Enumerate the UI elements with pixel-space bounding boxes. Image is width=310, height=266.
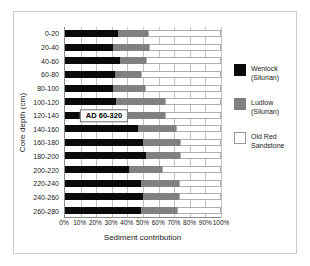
bar-segment <box>141 180 178 187</box>
legend-label-line: Ludlow <box>251 98 279 107</box>
bar-segment <box>148 30 221 37</box>
x-axis-tick-label: 50% <box>136 219 149 226</box>
legend-entry: Ludlow(Silurian) <box>234 98 304 117</box>
legend-label-line: Old Red <box>251 132 284 141</box>
bar-segment <box>180 139 221 146</box>
x-axis-tick-label: 20% <box>89 219 102 226</box>
bar-segment <box>129 166 162 173</box>
bar-segment <box>146 57 221 64</box>
bar-segment <box>141 71 221 78</box>
gridline <box>221 27 222 217</box>
bar-row <box>65 163 221 177</box>
y-axis-tick-label: 20-40 <box>16 41 62 55</box>
bar-segment <box>120 57 147 64</box>
bar-segment <box>65 71 115 78</box>
stacked-bar <box>65 44 221 51</box>
bar-segment <box>116 98 164 105</box>
legend-label: Wenlock(Silurian) <box>251 64 279 83</box>
bar-segment <box>65 44 113 51</box>
x-axis-tick-label: 100% <box>213 219 230 226</box>
x-axis-tick-label: 40% <box>120 219 133 226</box>
legend-entry: Old RedSandstone <box>234 132 304 151</box>
y-axis-tick-label: 160-180 <box>16 136 62 150</box>
bar-segment <box>65 207 141 214</box>
y-axis-tick-label: 260-280 <box>16 204 62 218</box>
x-axis-tick-label: 0% <box>59 219 68 226</box>
y-axis-tick-label: 120-140 <box>16 109 62 123</box>
bar-row <box>65 204 221 218</box>
plot-area: AD 60-320 <box>64 27 221 218</box>
x-axis-tick-label: 70% <box>167 219 180 226</box>
chart-annotation: AD 60-320 <box>80 109 128 123</box>
stacked-bar <box>65 180 221 187</box>
bar-segment <box>115 71 142 78</box>
bar-segment <box>146 152 180 159</box>
bar-segment <box>65 125 138 132</box>
bar-row <box>65 149 221 163</box>
bar-segment <box>179 180 221 187</box>
legend-label: Old RedSandstone <box>251 132 284 151</box>
y-axis-tick-label: 180-200 <box>16 150 62 164</box>
stacked-bar <box>65 207 221 214</box>
stacked-bar <box>65 193 221 200</box>
bar-segment <box>143 139 180 146</box>
y-axis-tick-label: 40-60 <box>16 54 62 68</box>
bar-segment <box>145 85 221 92</box>
legend-label-line: (Silurian) <box>251 107 279 116</box>
bar-segment <box>179 193 221 200</box>
bar-row <box>65 136 221 150</box>
bar-segment <box>65 139 143 146</box>
stacked-bar <box>65 85 221 92</box>
bar-segment <box>180 152 221 159</box>
y-axis-tick-label: 100-120 <box>16 95 62 109</box>
bar-segment <box>176 125 221 132</box>
y-axis-tick-label: 140-160 <box>16 122 62 136</box>
bar-row <box>65 27 221 41</box>
legend-entry: Wenlock(Silurian) <box>234 64 304 83</box>
bar-segment <box>165 112 221 119</box>
bar-segment <box>141 207 177 214</box>
stacked-bar <box>65 152 221 159</box>
bar-segment <box>65 57 120 64</box>
bar-row <box>65 176 221 190</box>
bar-row <box>65 190 221 204</box>
legend-label-line: Wenlock <box>251 64 279 73</box>
y-axis-tick-label: 0-20 <box>16 27 62 41</box>
x-axis-tick-label: 10% <box>73 219 86 226</box>
y-axis-tick-label: 200-220 <box>16 163 62 177</box>
stacked-bar <box>65 30 221 37</box>
legend-swatch <box>234 132 246 144</box>
legend-label-line: Sandstone <box>251 141 284 150</box>
bar-segment <box>65 98 116 105</box>
bar-row <box>65 122 221 136</box>
legend-label-line: (Silurian) <box>251 73 279 82</box>
bar-segment <box>162 166 221 173</box>
x-axis-tick-label: 90% <box>199 219 212 226</box>
bar-row <box>65 81 221 95</box>
y-axis-tick-labels: 0-2020-4040-6060-8080-100100-120120-1401… <box>16 27 62 218</box>
y-axis-tick-label: 60-80 <box>16 68 62 82</box>
bar-segment <box>118 30 148 37</box>
stacked-bar <box>65 98 221 105</box>
legend-swatch <box>234 64 246 76</box>
legend: Wenlock(Silurian)Ludlow(Silurian)Old Red… <box>234 64 304 166</box>
bar-segment <box>65 166 129 173</box>
legend-label: Ludlow(Silurian) <box>251 98 279 117</box>
stacked-bar <box>65 71 221 78</box>
bar-segment <box>138 125 175 132</box>
bar-segment <box>65 180 141 187</box>
bar-segment <box>65 152 146 159</box>
bar-segment <box>143 193 179 200</box>
x-axis-tick-label: 80% <box>183 219 196 226</box>
bar-segment <box>113 85 144 92</box>
bar-row <box>65 41 221 55</box>
y-axis-tick-label: 220-240 <box>16 177 62 191</box>
x-axis-tick-label: 30% <box>105 219 118 226</box>
stacked-bar <box>65 166 221 173</box>
y-axis-tick-label: 240-260 <box>16 191 62 205</box>
x-axis-tick-labels: 0%10%20%30%40%50%60%70%80%90%100% <box>64 219 221 231</box>
stacked-bar <box>65 125 221 132</box>
bar-segment <box>65 30 118 37</box>
bar-segment <box>113 44 149 51</box>
bar-segment <box>65 85 113 92</box>
